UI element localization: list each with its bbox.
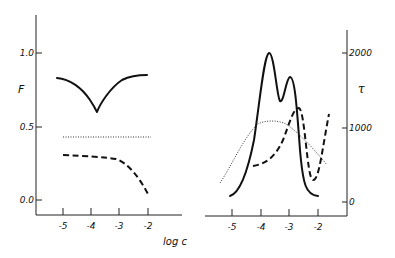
x-tick-label: -4	[257, 222, 266, 232]
y-tick-label: 0.5	[20, 122, 35, 132]
left-dashed-curve	[63, 155, 149, 196]
x-tick-label: -3	[285, 222, 294, 232]
y-tick-label: 0.0	[20, 195, 35, 205]
right-panel: 2000 1000 0 τ -5 -4 -3 -2	[205, 30, 372, 232]
x-tick-label: -3	[115, 221, 124, 231]
x-tick-label: -2	[144, 221, 153, 231]
left-solid-curve	[57, 75, 147, 112]
y-axis-label-F: F	[18, 83, 25, 96]
x-tick-label: -5	[59, 221, 68, 231]
y-tick-label: 0	[349, 197, 355, 207]
x-tick-label: -4	[87, 221, 96, 231]
right-solid-curve	[230, 53, 318, 196]
figure: 1.0 0.5 0.0 F -5 -4 -3 -2 log c 2000 100…	[0, 0, 395, 258]
left-panel: 1.0 0.5 0.0 F -5 -4 -3 -2 log c	[18, 15, 187, 247]
right-dashed-curve	[253, 108, 329, 180]
x-tick-label: -5	[228, 222, 237, 232]
x-tick-label: -2	[314, 222, 323, 232]
y-tick-label: 2000	[349, 48, 372, 58]
y-tick-label: 1.0	[20, 48, 35, 58]
x-axis-label: log c	[163, 236, 187, 247]
y-tick-label: 1000	[349, 123, 372, 133]
y-axis-label-tau: τ	[358, 82, 365, 96]
